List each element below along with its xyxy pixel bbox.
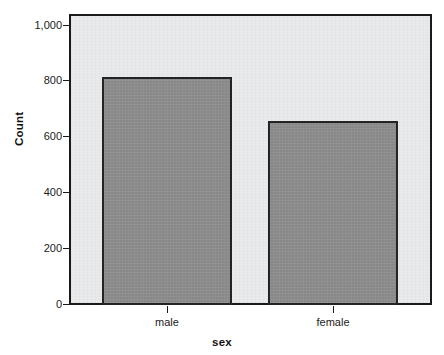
- y-tick-label-1000: 1,000: [34, 20, 62, 31]
- y-tick-mark-1000: [63, 25, 69, 26]
- x-tick-mark-female: [333, 306, 334, 313]
- x-tick-label-male: male: [155, 316, 179, 328]
- y-tick-mark-600: [63, 136, 69, 137]
- x-tick-label-female: female: [316, 316, 349, 328]
- y-tick-label-400: 400: [44, 187, 62, 198]
- y-tick-label-600: 600: [44, 131, 62, 142]
- x-axis-title: sex: [0, 336, 444, 348]
- y-tick-mark-200: [63, 248, 69, 249]
- y-tick-mark-0: [63, 304, 69, 305]
- x-tick-mark-male: [167, 306, 168, 313]
- bar-chart: 1,000 800 600 400 200 0 Count male femal…: [0, 0, 444, 355]
- y-tick-mark-800: [63, 80, 69, 81]
- y-axis-ticks: 1,000 800 600 400 200 0: [0, 0, 62, 355]
- y-axis-title: Count: [13, 112, 25, 146]
- y-tick-label-800: 800: [44, 75, 62, 86]
- bar-male[interactable]: [102, 77, 232, 305]
- bar-female[interactable]: [268, 121, 398, 305]
- y-tick-label-200: 200: [44, 243, 62, 254]
- y-tick-label-0: 0: [56, 299, 62, 310]
- y-tick-mark-400: [63, 192, 69, 193]
